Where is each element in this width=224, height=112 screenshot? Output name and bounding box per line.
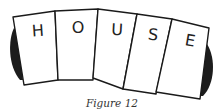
card-letter: S [147, 25, 159, 45]
figure-caption: Figure 12 [0, 97, 224, 109]
card-letter: U [111, 20, 124, 40]
card-letter: H [31, 21, 44, 41]
card-letter: O [72, 18, 85, 37]
card-o: O [55, 9, 98, 80]
house-cards-diagram: H O U S E [0, 0, 224, 112]
